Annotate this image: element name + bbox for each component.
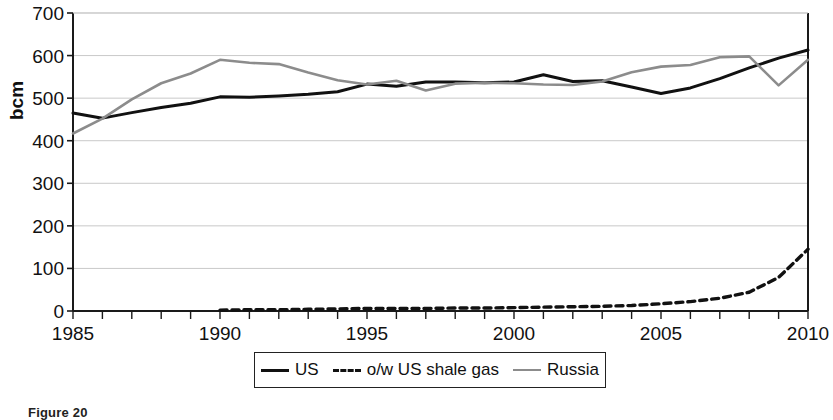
x-tick-label: 2010 (768, 324, 833, 343)
legend-item-russia: Russia (513, 360, 599, 380)
x-tick-label: 2005 (621, 324, 701, 343)
y-tick-label: 600 (8, 47, 64, 66)
y-tick-label: 400 (8, 132, 64, 151)
x-tick-label: 1990 (180, 324, 260, 343)
x-tick-label: 1985 (33, 324, 113, 343)
legend-label: US (295, 360, 319, 380)
legend-label: Russia (547, 360, 599, 380)
legend-swatch-gray-line-icon (513, 369, 541, 371)
y-tick-label: 700 (8, 4, 64, 23)
x-tick-label: 1995 (327, 324, 407, 343)
y-tick-label: 500 (8, 89, 64, 108)
legend-swatch-line-icon (261, 369, 289, 372)
y-tick-label: 200 (8, 217, 64, 236)
x-tick-label: 2000 (474, 324, 554, 343)
y-tick-label: 100 (8, 259, 64, 278)
figure-caption: Figure 20 (28, 405, 88, 420)
y-tick-label: 300 (8, 174, 64, 193)
chart-legend: US o/w US shale gas Russia (254, 352, 606, 388)
legend-item-us: US (261, 360, 319, 380)
y-tick-label: 0 (8, 302, 64, 321)
legend-label: o/w US shale gas (367, 360, 499, 380)
legend-item-us-shale-gas: o/w US shale gas (333, 360, 499, 380)
legend-swatch-dashed-line-icon (333, 369, 361, 372)
